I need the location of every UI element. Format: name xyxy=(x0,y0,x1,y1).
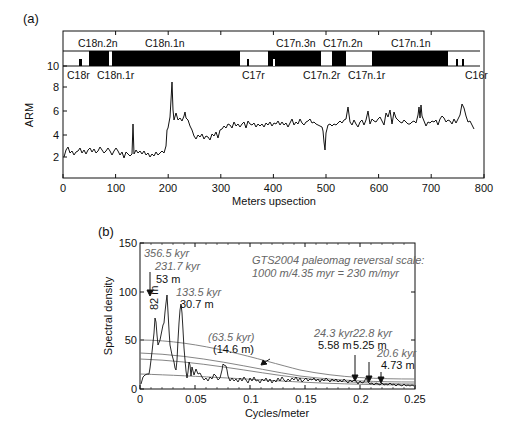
panel-a-top-ticks xyxy=(116,31,432,35)
panel-b-xtick-015: 0.15 xyxy=(295,393,316,405)
panel-b-xtick-0: 0 xyxy=(137,393,143,405)
anno-5-58m: 5.58 m xyxy=(318,339,352,351)
panel-a-xtick-300: 300 xyxy=(212,182,230,194)
anno-4-73m: 4.73 m xyxy=(381,359,415,371)
reversal-scale-note-line1: GTS2004 paleomag reversal scale: xyxy=(252,254,424,266)
chron-label-c17n1r: C17n.1r xyxy=(348,69,386,81)
anno-14-6m: (14.6 m) xyxy=(213,343,254,355)
anno-63-kyr: (63.5 kyr) xyxy=(208,331,255,343)
panel-a-xtick-600: 600 xyxy=(370,182,388,194)
anno-82m: 82 m xyxy=(148,286,160,310)
panel-a-ytick-10: 10 xyxy=(47,60,59,72)
figure: (a) C18n.2n C18n.1n C17n.3n C17n.2n C17n… xyxy=(0,0,524,437)
anno-356-kyr: 356.5 kyr xyxy=(144,247,191,259)
anno-231-kyr: 231.7 kyr xyxy=(154,260,202,272)
panel-a-x-ticks xyxy=(63,174,484,178)
panel-b-xtick-025: 0.25 xyxy=(404,393,425,405)
chron-label-c17n2r: C17n.2r xyxy=(303,69,341,81)
panel-a-xlabel: Meters upsection xyxy=(232,195,316,207)
panel-b-xtick-005: 0.05 xyxy=(185,393,206,405)
panel-a-xtick-700: 700 xyxy=(422,182,440,194)
anno-22-kyr: 22.8 kyr xyxy=(352,327,393,339)
arm-series-line xyxy=(64,82,474,158)
anno-24-kyr: 24.3 kyr xyxy=(313,327,354,339)
panel-b-ylabel: Spectral density xyxy=(102,276,114,355)
chron-label-c17n2n: C17n.2n xyxy=(323,37,363,49)
panel-a-label: (a) xyxy=(23,11,39,26)
chron-label-c18n1r: C18n.1r xyxy=(97,69,135,81)
chron-label-c17n1n: C17n.1n xyxy=(391,37,431,49)
panel-a-xtick-200: 200 xyxy=(159,182,177,194)
panel-a-ytick-8: 8 xyxy=(53,81,59,93)
chron-label-c16r: C16r xyxy=(465,69,488,81)
chron-label-c18n2n: C18n.2n xyxy=(78,37,118,49)
panel-b-xtick-02: 0.2 xyxy=(353,393,368,405)
panel-b-xtick-01: 0.1 xyxy=(243,393,258,405)
panel-a-xtick-100: 100 xyxy=(107,182,125,194)
panel-a-ytick-4: 4 xyxy=(53,129,59,141)
anno-133-kyr: 133.5 kyr xyxy=(176,286,223,298)
panel-b-ytick-50: 50 xyxy=(125,334,137,346)
polarity-column xyxy=(63,51,480,66)
chron-label-c18r: C18r xyxy=(67,69,90,81)
chron-label-c17n3n: C17n.3n xyxy=(276,37,316,49)
panel-a-xtick-500: 500 xyxy=(317,182,335,194)
panel-a-ytick-2: 2 xyxy=(53,151,59,163)
panel-b-ytick-100: 100 xyxy=(119,286,137,298)
panel-b-ytick-150: 150 xyxy=(119,237,137,249)
panel-a-ytick-6: 6 xyxy=(53,105,59,117)
panel-a-ylabel: ARM xyxy=(23,103,35,127)
panel-a-xtick-400: 400 xyxy=(264,182,282,194)
anno-20-kyr: 20.6 kyr xyxy=(376,347,417,359)
anno-53m: 53 m xyxy=(156,273,180,285)
panel-b-label: (b) xyxy=(98,224,114,239)
chron-label-c18n1n: C18n.1n xyxy=(145,37,185,49)
panel-a-xtick-800: 800 xyxy=(475,182,493,194)
chron-label-c17r: C17r xyxy=(242,69,265,81)
panel-b-xlabel: Cycles/meter xyxy=(245,407,310,419)
panel-a-xtick-0: 0 xyxy=(60,182,66,194)
reversal-scale-note-line2: 1000 m/4.35 myr = 230 m/myr xyxy=(252,267,400,279)
anno-30-7m: 30.7 m xyxy=(180,298,214,310)
